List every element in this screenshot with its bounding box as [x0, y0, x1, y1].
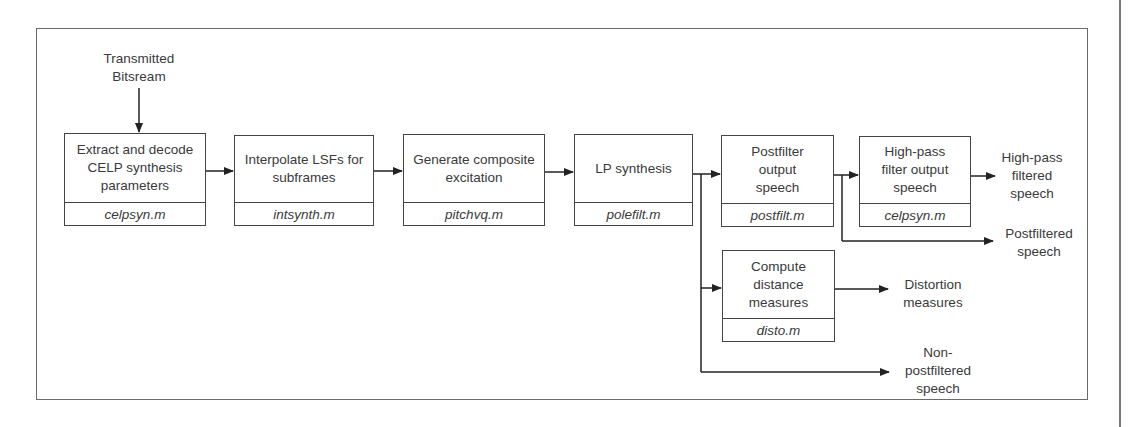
block-file: celpsyn.m [65, 202, 205, 225]
block-postfilter: Postfilter output speech postfilt.m [721, 135, 834, 227]
block-title: Postfilter output speech [722, 136, 833, 203]
block-file: pitchvq.m [404, 202, 544, 225]
block-extract-decode: Extract and decode CELP synthesis parame… [64, 133, 206, 226]
output-distortion-label: Distortion measures [888, 276, 978, 312]
block-file: disto.m [723, 318, 834, 341]
celp-decoder-diagram: Transmitted Bitsream Extract and decode … [0, 0, 1129, 427]
block-title: High-pass filter output speech [860, 137, 970, 203]
output-postfiltered-label: Postfiltered speech [994, 225, 1084, 261]
block-file: postfilt.m [722, 203, 833, 226]
block-file: polefilt.m [575, 202, 692, 225]
input-bitstream-label: Transmitted Bitsream [84, 50, 194, 86]
block-title: Generate composite excitation [404, 135, 544, 202]
block-title: Interpolate LSFs for subframes [235, 136, 373, 202]
block-interpolate-lsf: Interpolate LSFs for subframes intsynth.… [234, 135, 374, 226]
block-title: Compute distance measures [723, 251, 834, 318]
output-nonpostfiltered-label: Non- postfiltered speech [888, 344, 988, 398]
output-highpass-label: High-pass filtered speech [992, 149, 1072, 203]
block-file: intsynth.m [235, 202, 373, 225]
block-file: celpsyn.m [860, 203, 970, 226]
block-lp-synthesis: LP synthesis polefilt.m [574, 134, 693, 226]
block-title: Extract and decode CELP synthesis parame… [65, 134, 205, 202]
block-highpass-filter: High-pass filter output speech celpsyn.m [859, 136, 971, 227]
block-compute-distance: Compute distance measures disto.m [722, 250, 835, 342]
block-title: LP synthesis [575, 135, 692, 202]
block-generate-excitation: Generate composite excitation pitchvq.m [403, 134, 545, 226]
